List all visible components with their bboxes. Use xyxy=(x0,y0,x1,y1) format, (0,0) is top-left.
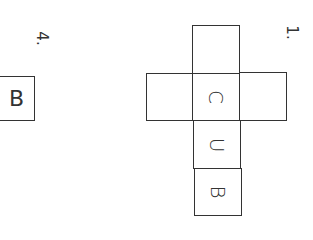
net-cell-center: C xyxy=(192,73,240,121)
cell-letter: C xyxy=(206,90,226,104)
problem-1-label: 1. xyxy=(284,25,299,39)
net-cell-middle-left xyxy=(146,73,193,121)
answer-box-4: B xyxy=(0,76,35,121)
problem-4-label: 4. xyxy=(34,31,49,45)
cell-letter: U xyxy=(207,137,227,152)
net-cell-below-center: U xyxy=(193,120,241,169)
answer-letter: B xyxy=(9,88,24,110)
net-cell-bottom: B xyxy=(194,168,242,216)
net-cell-top xyxy=(192,25,240,74)
net-cell-middle-right xyxy=(239,72,287,121)
cell-letter: B xyxy=(208,185,228,198)
